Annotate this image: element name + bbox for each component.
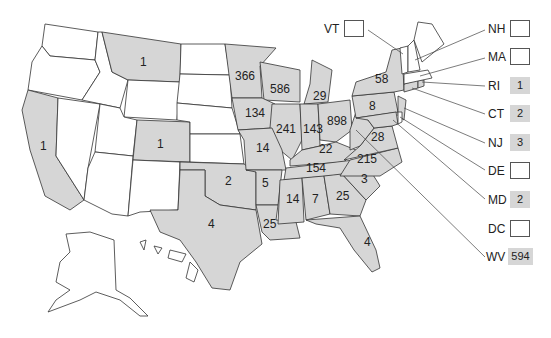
- label-LA: 25: [263, 217, 277, 231]
- state-KS[interactable]: [190, 134, 244, 164]
- label-VA: 28: [371, 130, 385, 144]
- state-ND[interactable]: [180, 44, 230, 75]
- callout-label-MA: MA: [488, 50, 506, 64]
- label-AR: 5: [262, 176, 269, 190]
- callout-box-RI: 1: [510, 77, 530, 94]
- label-WI: 586: [270, 82, 290, 96]
- label-CO: 1: [157, 137, 164, 151]
- callout-label-VT: VT: [324, 22, 339, 36]
- callout-label-WV: WV: [486, 250, 505, 264]
- label-OH: 898: [327, 114, 347, 128]
- callout-label-NH: NH: [488, 22, 505, 36]
- us-state-map: 1 1 1 366 586 29 134 241 143 898 14 22 5…: [0, 0, 551, 338]
- label-PA: 8: [369, 99, 376, 113]
- callout-label-DC: DC: [488, 222, 505, 236]
- label-MT: 1: [140, 55, 147, 69]
- label-IN: 143: [303, 122, 323, 136]
- label-MN: 366: [235, 69, 255, 83]
- label-TN: 154: [306, 161, 326, 175]
- label-MO: 14: [256, 141, 270, 155]
- callout-label-NJ: NJ: [488, 136, 503, 150]
- leader-MA: [420, 58, 485, 76]
- leader-WV: [356, 130, 485, 257]
- label-KY: 22: [319, 142, 333, 156]
- callout-box-CT: 2: [510, 105, 530, 122]
- state-WY[interactable]: [124, 80, 180, 120]
- leader-RI: [422, 82, 485, 86]
- callout-box-NH: [510, 20, 530, 37]
- callout-label-DE: DE: [488, 164, 505, 178]
- leader-NJ: [404, 108, 485, 143]
- label-NC: 215: [357, 152, 377, 166]
- state-WA[interactable]: [42, 24, 98, 60]
- leader-MD: [393, 120, 485, 199]
- state-AK[interactable]: [48, 232, 148, 316]
- label-NY: 58: [375, 72, 389, 86]
- callout-label-MD: MD: [488, 193, 507, 207]
- leader-VT: [368, 30, 403, 54]
- label-GA: 25: [336, 189, 350, 203]
- label-CA: 1: [40, 139, 47, 153]
- label-TX: 4: [208, 217, 215, 231]
- label-SC: 3: [361, 172, 368, 186]
- callout-box-DC: [510, 220, 530, 237]
- callout-box-WV: 594: [508, 248, 533, 265]
- leader-CT: [412, 88, 485, 114]
- callout-box-NJ: 3: [510, 134, 530, 151]
- label-IL: 241: [276, 122, 296, 136]
- label-AL: 7: [312, 192, 319, 206]
- label-OK: 2: [225, 174, 232, 188]
- label-MI: 29: [313, 89, 327, 103]
- callout-box-VT: [344, 20, 364, 37]
- callout-box-MA: [510, 48, 530, 65]
- state-SD[interactable]: [177, 74, 232, 108]
- callout-label-CT: CT: [488, 107, 504, 121]
- state-ME[interactable]: [414, 22, 444, 62]
- callout-box-MD: 2: [510, 191, 530, 208]
- callout-label-RI: RI: [488, 79, 500, 93]
- label-IA: 134: [245, 106, 265, 120]
- state-AZ[interactable]: [84, 152, 133, 216]
- state-NM[interactable]: [128, 160, 180, 216]
- label-FL: 4: [364, 235, 371, 249]
- callout-box-DE: [510, 162, 530, 179]
- label-MS: 14: [286, 192, 300, 206]
